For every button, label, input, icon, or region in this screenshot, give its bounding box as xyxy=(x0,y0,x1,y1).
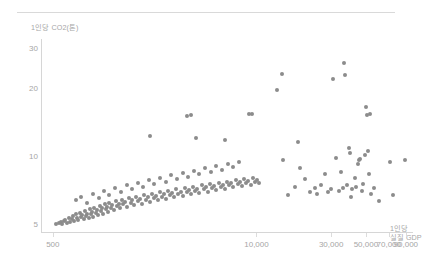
scatter-point xyxy=(286,193,290,197)
scatter-point xyxy=(176,192,180,196)
scatter-point xyxy=(109,206,113,210)
scatter-point xyxy=(72,219,76,223)
scatter-point xyxy=(89,212,93,216)
scatter-point xyxy=(158,190,162,194)
x-axis-tick-label: 10,000 xyxy=(244,240,268,249)
scatter-point xyxy=(303,177,307,181)
scatter-point xyxy=(244,181,248,185)
scatter-point xyxy=(308,190,312,194)
scatter-point xyxy=(197,191,201,195)
scatter-point xyxy=(242,177,246,181)
scatter-point xyxy=(403,158,407,162)
scatter-point xyxy=(200,183,204,187)
scatter-point xyxy=(95,208,99,212)
scatter-point xyxy=(148,200,152,204)
scatter-point xyxy=(364,105,368,109)
scatter-point xyxy=(237,160,241,164)
scatter-point xyxy=(203,166,207,170)
scatter-point xyxy=(127,196,131,200)
scatter-point xyxy=(138,197,142,201)
scatter-point xyxy=(76,218,80,222)
scatter-point xyxy=(366,149,370,153)
scatter-point xyxy=(91,215,95,219)
scatter-point xyxy=(227,183,231,187)
scatter-point xyxy=(356,162,360,166)
scatter-point xyxy=(363,153,367,157)
scatter-point xyxy=(117,202,121,206)
scatter-point xyxy=(296,140,300,144)
scatter-point xyxy=(99,209,103,213)
scatter-point xyxy=(357,158,361,162)
scatter-point xyxy=(217,181,221,185)
scatter-point xyxy=(130,198,134,202)
scatter-point xyxy=(144,198,148,202)
scatter-point xyxy=(221,183,225,187)
x-axis-tick-label: 30,000 xyxy=(319,240,343,249)
scatter-point xyxy=(125,183,129,187)
x-axis-tick-label: 90,000 xyxy=(394,240,418,249)
scatter-point xyxy=(210,186,214,190)
scatter-point xyxy=(113,186,117,190)
scatter-point xyxy=(212,184,216,188)
scatter-point xyxy=(189,113,193,117)
scatter-point xyxy=(206,190,210,194)
scatter-point xyxy=(388,160,392,164)
scatter-point xyxy=(192,169,196,173)
scatter-point xyxy=(146,195,150,199)
scatter-point xyxy=(319,183,323,187)
scatter-point xyxy=(174,187,178,191)
scatter-point xyxy=(132,203,136,207)
x-axis-tick-mark xyxy=(331,233,332,237)
scatter-point xyxy=(164,197,168,201)
scatter-point xyxy=(101,212,105,216)
scatter-point xyxy=(181,194,185,198)
scatter-point xyxy=(142,193,146,197)
scatter-point xyxy=(70,217,74,221)
scatter-point xyxy=(104,207,108,211)
scatter-point xyxy=(147,178,151,182)
scatter-point xyxy=(185,114,189,118)
scatter-point xyxy=(152,182,156,186)
scatter-point xyxy=(60,222,64,226)
scatter-point xyxy=(214,188,218,192)
scatter-point xyxy=(367,172,371,176)
scatter-point xyxy=(293,185,297,189)
scatter-point xyxy=(204,185,208,189)
scatter-point xyxy=(57,221,61,225)
scatter-point xyxy=(102,189,106,193)
scatter-point xyxy=(358,157,362,161)
scatter-point xyxy=(183,186,187,190)
scatter-point xyxy=(97,196,101,200)
scatter-point xyxy=(83,209,87,213)
scatter-point xyxy=(281,158,285,162)
x-axis-tick-label: 500 xyxy=(46,240,59,249)
scatter-point xyxy=(152,196,156,200)
scatter-point xyxy=(114,199,118,203)
scatter-point xyxy=(160,195,164,199)
scatter-point xyxy=(191,185,195,189)
scatter-point xyxy=(123,200,127,204)
scatter-point xyxy=(231,165,235,169)
scatter-point xyxy=(249,183,253,187)
scatter-point xyxy=(63,218,67,222)
scatter-point xyxy=(110,203,114,207)
scatter-point xyxy=(162,192,166,196)
scatter-point xyxy=(112,208,116,212)
y-axis-ticks: 5102030 xyxy=(18,0,38,273)
scatter-point xyxy=(130,187,134,191)
scatter-point xyxy=(240,184,244,188)
scatter-point xyxy=(119,190,123,194)
scatter-point xyxy=(154,194,158,198)
scatter-point xyxy=(68,220,72,224)
scatter-point xyxy=(251,176,255,180)
scatter-point xyxy=(365,113,369,117)
scatter-point xyxy=(75,216,79,220)
scatter-point xyxy=(115,204,119,208)
scatter-point xyxy=(169,173,173,177)
scatter-point xyxy=(361,182,365,186)
scatter-point xyxy=(118,206,122,210)
scatter-point xyxy=(195,187,199,191)
scatter-point xyxy=(148,134,152,138)
scatter-point xyxy=(226,162,230,166)
scatter-point xyxy=(136,181,140,185)
